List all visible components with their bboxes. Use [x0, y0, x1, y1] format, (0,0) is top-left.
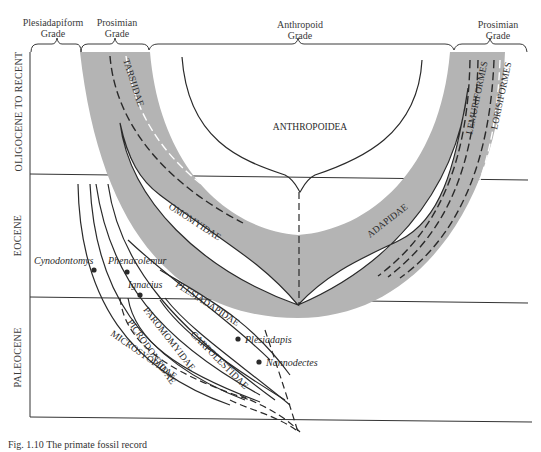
label-nannodectes: Nannodectes	[265, 357, 318, 368]
cynodontomys-dot	[91, 267, 96, 272]
label-ignacius: Ignacius	[127, 279, 163, 290]
ignacius-dot	[137, 292, 142, 297]
label-carpolestidae: CARPOLESTIDAE	[189, 329, 251, 391]
figure-caption: Fig. 1.10 The primate fossil record	[8, 439, 147, 450]
label-phenacolemur: Phenacolemur	[107, 255, 166, 266]
grade-braces	[31, 38, 527, 52]
nannodectes-dot	[256, 359, 261, 364]
phylogeny-diagram: ANTHROPOIDEA TARSIIDAE OMOMYIDAE ADAPIDA…	[0, 0, 541, 452]
epoch-paleocene: PALEOCENE	[12, 325, 23, 391]
epoch-oligocene-to-recent: OLIGOCENE TO RECENT	[13, 52, 24, 172]
plesiadapis-dot	[235, 336, 240, 341]
label-plesiadapis: Plesiadapis	[244, 334, 292, 345]
label-anthropoidea: ANTHROPOIDEA	[273, 122, 348, 132]
epoch-eocene: EOCENE	[12, 211, 23, 261]
label-cynodontomys: Cynodontomys	[34, 255, 94, 266]
phenacolemur-dot	[124, 269, 129, 274]
